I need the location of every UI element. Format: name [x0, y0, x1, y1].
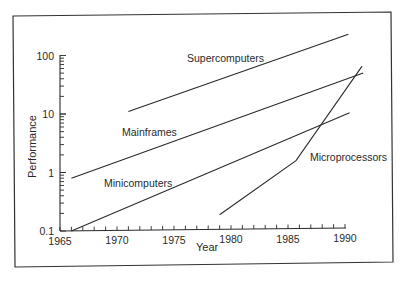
series-line-minicomputers: [71, 113, 349, 231]
x-axis-title: Year: [196, 241, 219, 253]
x-tick-label: 1970: [105, 234, 129, 246]
performance-chart: 0.1110100 196519701975198019851990 Super…: [0, 0, 404, 282]
series-line-supercomputers: [128, 34, 348, 111]
axes: [60, 55, 346, 231]
label-mainframes: Mainframes: [122, 126, 177, 138]
x-tick-label: 1975: [162, 234, 186, 246]
y-tick-label: 10: [42, 108, 54, 120]
y-tick-label: 1: [48, 167, 54, 179]
label-supercomputers: Supercomputers: [187, 52, 264, 64]
y-tick-labels: 0.1110100: [36, 50, 54, 238]
x-tick-label: 1985: [276, 233, 300, 245]
y-tick-label: 100: [36, 50, 54, 62]
x-tick-label: 1990: [333, 232, 357, 244]
label-microprocessors: Microprocessors: [310, 151, 387, 163]
chart-frame: [13, 12, 393, 267]
x-tick-label: 1965: [48, 235, 72, 247]
x-axis: [60, 228, 346, 231]
label-minicomputers: Minicomputers: [104, 177, 172, 189]
series-line-microprocessors: [220, 66, 363, 215]
x-tick-label: 1980: [219, 233, 243, 245]
y-axis-ticks: [60, 56, 66, 232]
y-axis-title: Performance: [26, 115, 38, 178]
